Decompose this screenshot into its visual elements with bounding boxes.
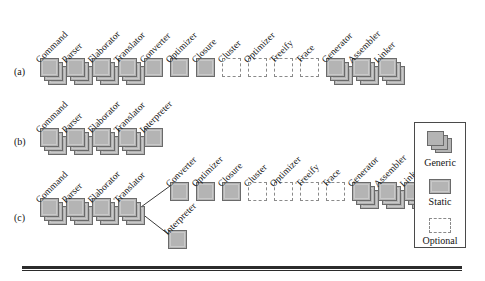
node-elaborator-b-2: [92, 128, 119, 155]
legend-swatch-static: [429, 179, 451, 194]
row-label-b: (b): [14, 136, 26, 147]
legend-swatch-optional: [429, 218, 451, 233]
node-command-c-0: [40, 198, 67, 225]
node-parser-c-1: [66, 198, 93, 225]
node-assembler-cu-108: [378, 182, 405, 209]
node-translator-c-3: [118, 198, 145, 225]
legend-item-generic: Generic: [415, 131, 465, 168]
bottom-rule-thick: [22, 266, 462, 269]
legend-panel: Generic Static Optional: [414, 122, 466, 248]
node-translator-b-3: [118, 128, 145, 155]
node-translator-a-3: [118, 58, 145, 85]
legend-label-generic: Generic: [415, 157, 465, 168]
legend-item-optional: Optional: [415, 218, 465, 246]
node-generator-a-11: [326, 58, 353, 85]
figure-canvas: (a)CommandParserElaboratorTranslatorConv…: [0, 0, 485, 281]
node-elaborator-a-2: [92, 58, 119, 85]
legend-swatch-generic: [427, 131, 453, 155]
node-generator-cu-107: [352, 182, 379, 209]
node-elaborator-c-2: [92, 198, 119, 225]
row-label-c: (c): [14, 212, 25, 223]
node-linker-a-13: [378, 58, 405, 85]
node-parser-a-1: [66, 58, 93, 85]
legend-label-optional: Optional: [415, 235, 465, 246]
connector-translator-to-converter: [141, 186, 170, 207]
legend-label-static: Static: [415, 196, 465, 207]
row-label-a: (a): [14, 66, 25, 77]
legend-item-static: Static: [415, 179, 465, 207]
node-command-b-0: [40, 128, 67, 155]
node-parser-b-1: [66, 128, 93, 155]
bottom-rule-thin: [22, 270, 462, 271]
node-assembler-a-12: [352, 58, 379, 85]
node-command-a-0: [40, 58, 67, 85]
